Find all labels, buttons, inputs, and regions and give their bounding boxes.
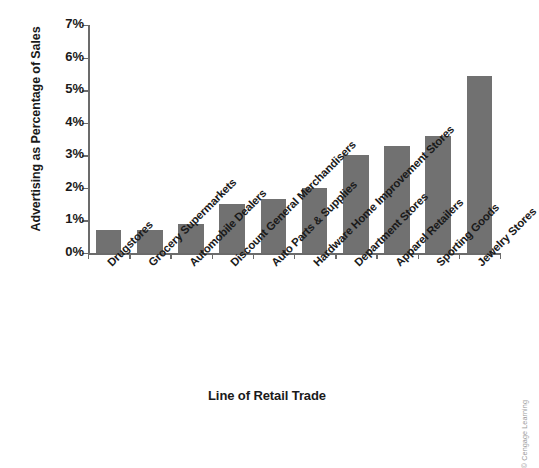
bar bbox=[261, 199, 287, 253]
x-axis-tick-mark bbox=[88, 253, 89, 259]
bar bbox=[343, 155, 369, 253]
y-axis-tick-label: 2% bbox=[65, 179, 84, 194]
bar bbox=[178, 224, 204, 253]
y-axis-tick-label: 1% bbox=[65, 211, 84, 226]
x-axis-tick-mark bbox=[129, 253, 130, 259]
y-axis-tick-label: 7% bbox=[65, 16, 84, 31]
bar bbox=[137, 230, 163, 253]
y-axis-tick-label: 4% bbox=[65, 114, 84, 129]
x-axis-tick-mark bbox=[500, 253, 501, 259]
plot-area: 0%1%2%3%4%5%6%7% bbox=[88, 25, 500, 253]
x-axis-tick-mark bbox=[459, 253, 460, 259]
bar bbox=[96, 230, 122, 253]
y-axis-tick-label: 3% bbox=[65, 146, 84, 161]
y-axis-tick-label: 0% bbox=[65, 244, 84, 259]
y-axis-title: Advertising as Percentage of Sales bbox=[29, 9, 43, 249]
bar bbox=[384, 146, 410, 253]
bar bbox=[425, 136, 451, 253]
x-axis-tick-mark bbox=[212, 253, 213, 259]
bar bbox=[302, 188, 328, 253]
x-axis-tick-mark bbox=[335, 253, 336, 259]
bar bbox=[219, 204, 245, 253]
copyright-credit: © Cengage Learning bbox=[520, 400, 529, 468]
x-axis-tick-mark bbox=[294, 253, 295, 259]
x-axis-tick-mark bbox=[418, 253, 419, 259]
x-axis-tick-mark bbox=[170, 253, 171, 259]
x-axis-tick-mark bbox=[253, 253, 254, 259]
x-axis-title: Line of Retail Trade bbox=[0, 388, 534, 403]
bar bbox=[467, 76, 493, 254]
x-axis-tick-mark bbox=[376, 253, 377, 259]
y-axis-tick-label: 5% bbox=[65, 81, 84, 96]
y-axis-line bbox=[88, 25, 90, 253]
y-axis-tick-label: 6% bbox=[65, 49, 84, 64]
